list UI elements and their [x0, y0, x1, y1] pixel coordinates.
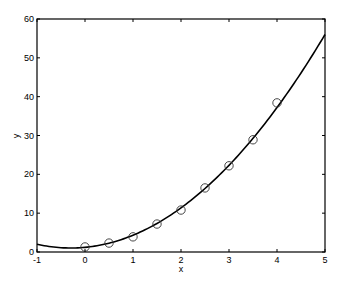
plot-axes [37, 19, 325, 252]
y-tick-label: 60 [24, 14, 34, 24]
x-tick-label: 3 [226, 255, 231, 265]
quadratic-fit-chart: -10123450102030405060 x y [0, 0, 346, 286]
x-tick-label: 1 [130, 255, 135, 265]
y-tick-label: 0 [29, 247, 34, 257]
axes-box [37, 19, 325, 252]
y-tick-label: 50 [24, 53, 34, 63]
x-tick-label: 4 [274, 255, 279, 265]
data-markers [81, 99, 281, 251]
y-tick-label: 40 [24, 92, 34, 102]
y-tick-label: 30 [24, 131, 34, 141]
fit-line [37, 35, 325, 248]
y-tick-label: 20 [24, 169, 34, 179]
y-tick-label: 10 [24, 208, 34, 218]
y-axis-label: y [11, 133, 21, 138]
x-tick-label: -1 [33, 255, 41, 265]
x-tick-label: 0 [82, 255, 87, 265]
fit-curve [37, 35, 325, 248]
axis-ticks: -10123450102030405060 [24, 14, 328, 265]
data-point [249, 136, 257, 144]
x-axis-label: x [179, 264, 184, 274]
x-tick-label: 5 [322, 255, 327, 265]
